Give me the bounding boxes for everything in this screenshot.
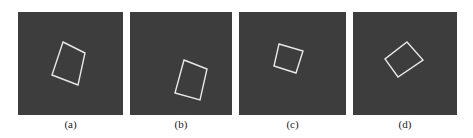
image-panel-b [130, 12, 232, 115]
panel-caption-b: (b) [130, 118, 232, 130]
tracked-square-icon [18, 12, 123, 115]
tracked-square-icon [239, 12, 346, 115]
tracked-square-icon [353, 12, 457, 115]
panel-caption-d: (d) [353, 118, 457, 130]
image-panel-a [18, 12, 123, 115]
tracked-square-icon [130, 12, 232, 115]
panel-caption-c: (c) [239, 118, 346, 130]
image-panel-d [353, 12, 457, 115]
panel-caption-a: (a) [18, 118, 123, 130]
image-panel-c [239, 12, 346, 115]
